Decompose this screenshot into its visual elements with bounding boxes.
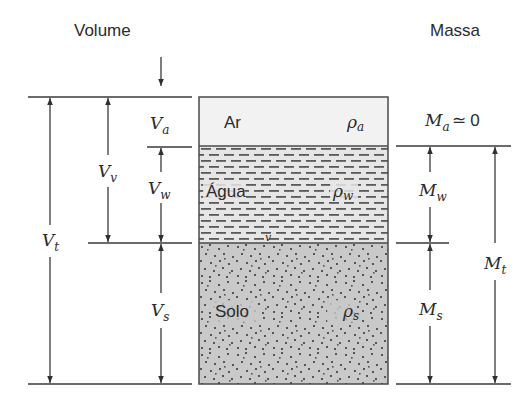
vs-label: Vs bbox=[151, 300, 169, 324]
volume-dimensions: Vt Vv Va Vw Vs bbox=[28, 97, 192, 384]
mass-header: Massa bbox=[430, 21, 481, 40]
mt-label: Mt bbox=[483, 253, 506, 277]
ms-label: Ms bbox=[418, 299, 443, 323]
air-label: Ar bbox=[224, 113, 241, 132]
mass-dimensions: Ma≃ 0 Mw Ms Mt bbox=[396, 110, 511, 384]
vw-label: Vw bbox=[148, 178, 171, 202]
soil-label: Solo bbox=[215, 302, 249, 321]
ma-label: Ma≃ 0 bbox=[424, 110, 480, 134]
vv-label: Vv bbox=[98, 161, 117, 185]
water-label: Água bbox=[206, 182, 246, 201]
va-label: Va bbox=[150, 113, 169, 137]
vt-label: Vt bbox=[42, 230, 59, 254]
stray-v-mark: v bbox=[265, 231, 272, 244]
mw-label: Mw bbox=[418, 180, 447, 204]
soil-phase-diagram: Volume Massa Ar ρa Água ρw v Solo ρs Vt bbox=[0, 0, 525, 406]
phase-block: Ar ρa Água ρw v Solo ρs bbox=[199, 97, 388, 384]
volume-header: Volume bbox=[74, 21, 131, 40]
